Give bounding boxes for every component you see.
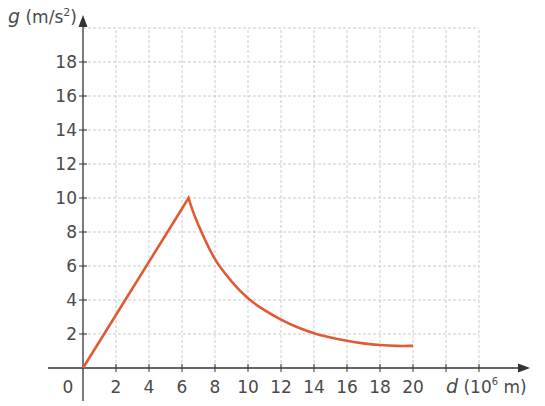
y-tick-label: 2 <box>66 324 77 344</box>
y-tick-label: 4 <box>66 290 77 310</box>
axis-labels: g (m/s2)d (106 m) <box>8 5 527 397</box>
x-tick-label: 20 <box>402 377 424 397</box>
origin-label: 0 <box>63 377 74 397</box>
y-tick-label: 8 <box>66 222 77 242</box>
y-tick-label: 10 <box>55 188 77 208</box>
y-tick-label: 12 <box>55 154 77 174</box>
grid-lines <box>83 28 479 368</box>
x-tick-label: 2 <box>111 377 122 397</box>
x-tick-label: 4 <box>144 377 155 397</box>
y-tick-label: 14 <box>55 120 77 140</box>
y-tick-label: 16 <box>55 86 77 106</box>
gravity-distance-chart: 2468101214161820024681012141618 g (m/s2)… <box>0 0 545 406</box>
y-axis-arrow-icon <box>79 15 88 27</box>
y-tick-label: 6 <box>66 256 77 276</box>
x-tick-label: 16 <box>336 377 358 397</box>
y-tick-label: 18 <box>55 52 77 72</box>
x-tick-label: 12 <box>270 377 292 397</box>
x-axis-arrow-icon <box>518 364 530 373</box>
x-tick-label: 10 <box>237 377 259 397</box>
x-axis-label: d (106 m) <box>446 375 527 397</box>
x-tick-label: 6 <box>177 377 188 397</box>
x-tick-label: 14 <box>303 377 325 397</box>
axes <box>48 15 530 401</box>
x-tick-label: 18 <box>369 377 391 397</box>
y-axis-label: g (m/s2) <box>8 5 77 27</box>
x-tick-label: 8 <box>210 377 221 397</box>
axis-ticks: 2468101214161820024681012141618 <box>55 52 479 397</box>
